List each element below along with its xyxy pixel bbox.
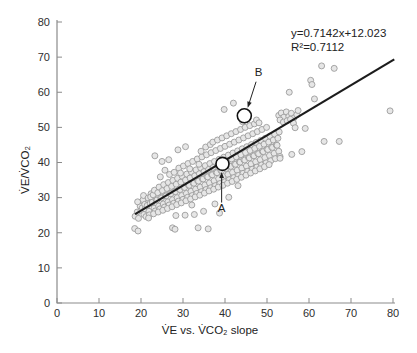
highlight-circle-b — [237, 109, 251, 123]
scatter-point — [189, 202, 195, 208]
scatter-point — [205, 226, 211, 232]
scatter-point — [135, 215, 141, 221]
scatter-point — [196, 161, 202, 167]
y-tick-label: 60 — [38, 86, 50, 98]
scatter-point — [264, 124, 270, 130]
x-tick-label: 70 — [345, 307, 357, 319]
scatter-points — [132, 63, 393, 234]
scatter-point — [309, 82, 315, 88]
scatter-point — [175, 147, 181, 153]
scatter-point — [331, 65, 337, 71]
scatter-point — [274, 142, 280, 148]
scatter-point — [289, 151, 295, 157]
annotation-label-b: B — [255, 66, 263, 78]
scatter-point — [201, 208, 207, 214]
y-tick-label: 50 — [38, 121, 50, 133]
scatter-point — [221, 106, 227, 112]
scatter-point — [195, 225, 201, 231]
scatter-point — [336, 138, 342, 144]
y-tick-label: 70 — [38, 51, 50, 63]
x-axis-label: V̇E vs. V̇CO₂ slope — [42, 324, 378, 336]
scatter-point — [266, 162, 272, 168]
annotation-label-a: A — [218, 202, 226, 214]
scatter-point — [135, 228, 141, 234]
r-squared-value: R²=0.7112 — [291, 40, 386, 54]
scatter-point — [299, 149, 305, 155]
x-tick-label: 60 — [303, 307, 315, 319]
scatter-point — [256, 120, 262, 126]
regression-line — [135, 59, 394, 214]
scatter-point — [292, 125, 298, 131]
x-tick-label: 50 — [261, 307, 273, 319]
y-tick-label: 0 — [44, 297, 50, 309]
scatter-point — [235, 183, 241, 189]
scatter-point — [321, 138, 327, 144]
scatter-point — [183, 144, 189, 150]
y-tick-label: 30 — [38, 191, 50, 203]
y-axis-ticks: 01020304050607080 — [38, 16, 62, 309]
highlight-circle-a — [216, 157, 229, 170]
y-tick-label: 40 — [38, 156, 50, 168]
scatter-point — [191, 211, 197, 217]
scatter-point — [159, 158, 165, 164]
annotation-arrowhead — [247, 101, 251, 107]
scatter-point — [286, 89, 292, 95]
x-tick-label: 80 — [387, 307, 399, 319]
x-tick-label: 20 — [135, 307, 147, 319]
scatter-point — [230, 100, 236, 106]
y-tick-label: 10 — [38, 262, 50, 274]
highlight-b: B — [237, 66, 262, 123]
scatter-point — [275, 135, 281, 141]
scatter-point — [146, 215, 152, 221]
x-axis-ticks: 01020304050607080 — [54, 298, 399, 319]
scatter-point — [177, 170, 183, 176]
scatter-point — [187, 166, 193, 172]
scatter-point — [295, 108, 301, 114]
scatter-point — [173, 213, 179, 219]
x-tick-label: 0 — [54, 307, 60, 319]
scatter-point — [387, 108, 393, 114]
regression-equation: y=0.7142x+12.023 R²=0.7112 — [291, 26, 386, 54]
y-tick-label: 20 — [38, 227, 50, 239]
scatter-point — [311, 96, 317, 102]
x-tick-label: 10 — [93, 307, 105, 319]
x-tick-label: 30 — [177, 307, 189, 319]
x-tick-label: 40 — [219, 307, 231, 319]
scatter-plot-figure: 0102030405060708001020304050607080AB y=0… — [0, 0, 417, 353]
y-tick-label: 80 — [38, 16, 50, 28]
scatter-point — [302, 125, 308, 131]
equation-line: y=0.7142x+12.023 — [291, 26, 386, 40]
scatter-point — [157, 174, 163, 180]
scatter-point — [182, 212, 188, 218]
scatter-point — [277, 155, 283, 161]
scatter-point — [172, 226, 178, 232]
annotation-arrow-line — [249, 82, 256, 104]
scatter-point — [319, 63, 325, 69]
y-axis-label: V̇E/V̇CO₂ — [19, 146, 31, 194]
scatter-point — [166, 157, 172, 163]
scatter-point — [152, 153, 158, 159]
scatter-point — [226, 194, 232, 200]
